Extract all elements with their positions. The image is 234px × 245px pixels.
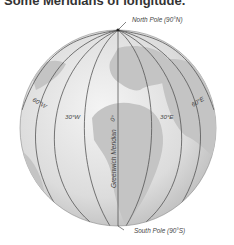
greenwich-meridian-label: Greenwich Meridian xyxy=(110,129,117,188)
south-pole-arrow xyxy=(118,226,124,230)
meridian-label-30e: 30°E xyxy=(160,113,174,120)
south-pole-label: South Pole (90°S) xyxy=(134,227,185,235)
meridian-label-30w: 30°W xyxy=(65,113,81,120)
north-pole-arrow xyxy=(118,22,126,30)
north-pole-label: North Pole (90°N) xyxy=(132,16,183,24)
globe-diagram: North Pole (90°N) South Pole (90°S) 60°W… xyxy=(0,0,234,245)
